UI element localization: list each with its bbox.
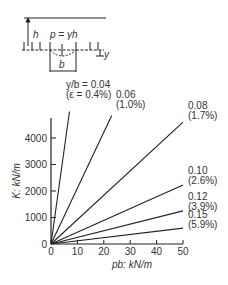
b-label: b bbox=[59, 59, 65, 70]
x-tick-label: 50 bbox=[177, 246, 189, 257]
y-tick-label: 3000 bbox=[25, 159, 48, 170]
chart-figure: h p = γh b y 01020304050 010002000300040… bbox=[0, 0, 228, 285]
x-tick-label: 10 bbox=[72, 246, 84, 257]
y-axis-title: K: kN/m bbox=[11, 163, 22, 199]
deflection-curve bbox=[50, 50, 76, 56]
series-line bbox=[51, 228, 183, 244]
y-label: y bbox=[103, 49, 110, 60]
series-strain-label: (2.6%) bbox=[188, 175, 217, 186]
y-tick-label: 0 bbox=[41, 239, 47, 250]
series-strain-label: (ε = 0.4%) bbox=[66, 89, 111, 100]
y-tick-label: 1000 bbox=[25, 212, 48, 223]
x-tick-label: 40 bbox=[151, 246, 163, 257]
series-line bbox=[51, 185, 183, 244]
x-tick-label: 20 bbox=[98, 246, 110, 257]
x-tick-label: 0 bbox=[48, 246, 54, 257]
p-label: p = γh bbox=[49, 29, 78, 40]
x-axis-title: pb: kN/m bbox=[111, 259, 152, 270]
series-strain-label: (1.7%) bbox=[188, 110, 217, 121]
series-strain-label: (1.0%) bbox=[116, 99, 145, 110]
x-tick-label: 30 bbox=[125, 246, 137, 257]
series-line bbox=[51, 211, 183, 244]
series-line bbox=[51, 122, 183, 244]
y-tick-label: 4000 bbox=[25, 133, 48, 144]
h-label: h bbox=[33, 29, 39, 40]
series-strain-label: (5.9%) bbox=[188, 219, 217, 230]
y-tick-label: 2000 bbox=[25, 186, 48, 197]
